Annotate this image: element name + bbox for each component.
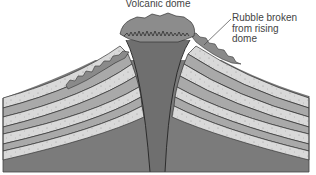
rubble-annotation: Rubble broken from rising dome <box>232 13 316 45</box>
rubble-leader-line <box>204 19 231 45</box>
volcanic-dome <box>120 13 195 42</box>
rubble-annotation-line-1: Rubble broken <box>232 13 316 24</box>
rubble-annotation-line-3: dome <box>232 34 316 45</box>
volcanic-dome-label: Volcanic dome <box>0 0 316 10</box>
